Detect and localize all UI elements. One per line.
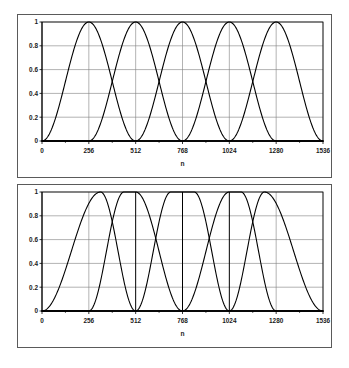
y-tick-label: 0.6 (29, 236, 38, 243)
y-tick-label: 0.6 (29, 66, 38, 73)
x-tick-label: 1536 (316, 317, 331, 324)
y-tick-label: 0.4 (29, 260, 38, 267)
x-tick-label: 1280 (269, 147, 284, 154)
x-tick-label: 0 (40, 147, 44, 154)
x-tick-label: 512 (130, 147, 141, 154)
x-tick-label: 512 (130, 317, 141, 324)
x-tick-label: 0 (40, 317, 44, 324)
x-tick-label: 768 (177, 147, 188, 154)
chart-plot-bottom: 00.20.40.60.810256512768102412801536n (18, 185, 331, 347)
x-tick-label: 768 (177, 317, 188, 324)
chart-plot-top: 00.20.40.60.810256512768102412801536n (18, 15, 331, 177)
y-tick-label: 0 (34, 307, 38, 314)
x-tick-label: 1536 (316, 147, 331, 154)
chart-panel-top: 00.20.40.60.810256512768102412801536n (17, 14, 332, 178)
y-tick-label: 0.8 (29, 42, 38, 49)
y-tick-label: 1 (34, 18, 38, 25)
x-tick-label: 256 (83, 147, 94, 154)
chart-panel-bottom: 00.20.40.60.810256512768102412801536n (17, 184, 332, 348)
y-tick-label: 0.8 (29, 212, 38, 219)
x-tick-label: 1280 (269, 317, 284, 324)
x-tick-label: 1024 (222, 147, 237, 154)
figure-stack: 00.20.40.60.810256512768102412801536n 00… (0, 0, 349, 368)
y-tick-label: 0 (34, 137, 38, 144)
y-tick-label: 0.2 (29, 284, 38, 291)
y-tick-label: 1 (34, 188, 38, 195)
x-tick-label: 1024 (222, 317, 237, 324)
x-axis-title: n (180, 330, 184, 337)
y-tick-label: 0.2 (29, 114, 38, 121)
x-tick-label: 256 (83, 317, 94, 324)
x-axis-title: n (180, 160, 184, 167)
y-tick-label: 0.4 (29, 90, 38, 97)
